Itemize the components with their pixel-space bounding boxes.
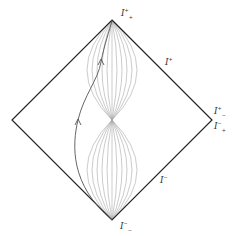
label-sub: − xyxy=(128,227,132,233)
label-sup: + xyxy=(218,105,222,111)
label-sup: + xyxy=(125,7,129,13)
label-sup: − xyxy=(164,174,168,180)
future-light-cones xyxy=(87,20,137,120)
label-sub: + xyxy=(129,14,133,20)
label-sub: − xyxy=(222,112,226,118)
label-past-null-infinity: I− xyxy=(160,175,168,185)
label-sup: − xyxy=(218,120,222,126)
label-past-timelike-infinity: I−− xyxy=(120,221,132,233)
worldline-arrow-icon xyxy=(75,119,81,125)
label-sub: + xyxy=(222,127,226,133)
label-spatial-infinity-lower: I−+ xyxy=(214,121,226,133)
label-sup: + xyxy=(169,56,173,62)
worldline xyxy=(75,20,112,220)
label-sup: − xyxy=(124,220,128,226)
penrose-diagram: I++ I+ I+− I−+ I− I−− xyxy=(0,0,233,236)
label-future-timelike-infinity: I++ xyxy=(121,8,133,20)
label-spatial-infinity-upper: I+− xyxy=(214,106,226,118)
label-future-null-infinity: I+ xyxy=(165,57,173,67)
diagram-canvas xyxy=(0,0,233,236)
past-light-cones xyxy=(87,120,137,220)
